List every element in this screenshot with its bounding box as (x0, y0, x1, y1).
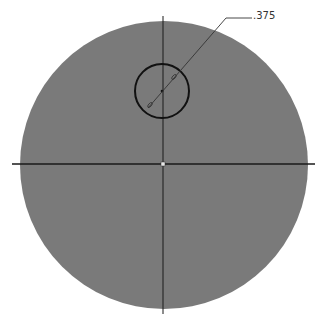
dimension-label[interactable]: .375 (253, 10, 275, 21)
center-point-marker[interactable] (161, 162, 165, 166)
drawing-canvas (0, 0, 325, 323)
